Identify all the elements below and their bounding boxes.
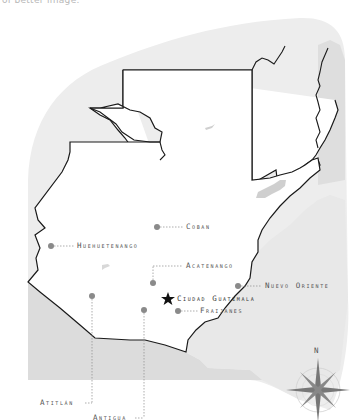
location-label-acatenango: Acatenango bbox=[186, 261, 234, 270]
location-label-nuevo-oriente: Nuevo Oriente bbox=[265, 281, 329, 290]
location-label-fraijanes: Fraijanes bbox=[200, 306, 243, 315]
compass-north-label: N bbox=[314, 346, 319, 355]
location-label-huehuetenango: Huehuetenango bbox=[77, 241, 138, 250]
huehuetenango-marker bbox=[48, 243, 54, 249]
location-label-atitlan: Atitlán bbox=[40, 398, 74, 407]
atitlan-marker bbox=[89, 293, 95, 299]
capital-label: Ciudad Guatemala bbox=[177, 294, 255, 303]
coban-marker bbox=[154, 224, 160, 230]
fraijanes-marker bbox=[175, 308, 181, 314]
acatenango-marker bbox=[150, 280, 156, 286]
guatemala-map bbox=[0, 0, 363, 420]
nuevo-oriente-marker bbox=[235, 283, 241, 289]
location-label-coban: Coban bbox=[186, 222, 211, 231]
antigua-marker bbox=[141, 307, 147, 313]
location-label-antigua: Antigua bbox=[93, 413, 127, 420]
